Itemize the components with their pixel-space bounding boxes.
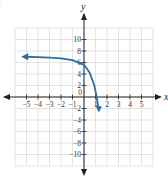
x-tick-label: −2 [57,100,65,109]
y-tick-label: 8 [77,47,81,56]
x-tick-label: 4 [128,100,132,109]
y-tick-label: 10 [74,35,82,44]
y-axis-down-arrow-icon [81,169,87,176]
graph: xy −5−4−3−2−112345108642−2−4−6−8−100 [0,0,168,177]
x-tick-label: −5 [23,100,31,109]
y-tick-label: −8 [73,139,81,148]
y-tick-label: −4 [73,116,81,125]
y-tick-label: −2 [73,104,81,113]
x-tick-label: −4 [34,100,42,109]
x-axis-label: x [163,91,168,102]
x-tick-label: 3 [117,100,121,109]
origin-label: 0 [78,88,82,97]
x-axis-right-arrow-icon [155,94,162,100]
x-axis-left-arrow-icon [3,94,10,100]
curve-left-arrow-icon [21,53,28,60]
y-tick-label: −6 [73,127,81,136]
curve-down-arrow-icon [95,106,102,113]
y-tick-label: 4 [77,70,81,79]
y-tick-label: −10 [69,150,81,159]
x-tick-label: 2 [105,100,109,109]
x-tick-label: −3 [46,100,54,109]
x-tick-label: 5 [140,100,144,109]
y-axis-up-arrow-icon [81,13,87,20]
axes: xy [3,1,168,176]
y-axis-label: y [80,1,86,12]
